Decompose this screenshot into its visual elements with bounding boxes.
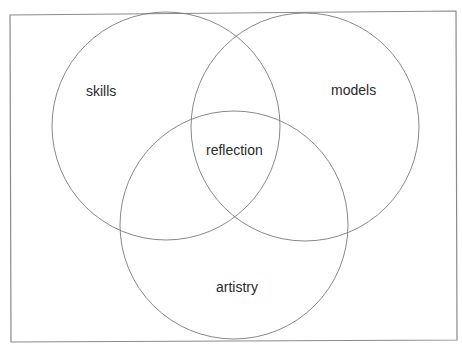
venn-diagram: skills models reflection artistry xyxy=(0,0,462,347)
label-artistry: artistry xyxy=(216,279,258,295)
circle-skills xyxy=(52,12,280,240)
label-reflection: reflection xyxy=(206,142,263,158)
label-skills: skills xyxy=(86,83,116,99)
circle-models xyxy=(191,13,419,241)
label-models: models xyxy=(331,82,376,98)
